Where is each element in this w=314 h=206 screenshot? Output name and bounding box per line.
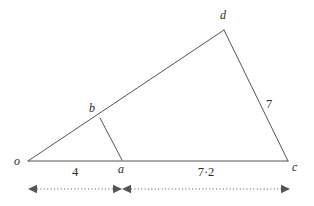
- dimension-label-ac-span: 7·2: [198, 166, 215, 179]
- vertex-label-d: d: [220, 9, 226, 21]
- dimension-arrow-right-ac-span: [281, 185, 290, 193]
- dimension-arrow-left-oa-span: [28, 185, 37, 193]
- geometry-figure: oabcd 747·2: [0, 0, 314, 206]
- vertex-label-c: c: [292, 161, 297, 173]
- dimension-label-oa-span: 4: [72, 166, 78, 179]
- vertex-label-b: b: [89, 102, 95, 114]
- vertex-label-a: a: [118, 163, 124, 175]
- vertex-label-o: o: [14, 155, 20, 167]
- segment-ba: [100, 118, 122, 160]
- segment-dc: [224, 30, 288, 161]
- side-length-label-dc-length: 7: [266, 98, 272, 111]
- segment-od: [28, 30, 224, 161]
- dimension-line-group: [28, 185, 290, 193]
- dimension-arrow-left-ac-span: [122, 185, 131, 193]
- dimension-arrow-right-oa-span: [113, 185, 122, 193]
- segment-group: [28, 30, 288, 161]
